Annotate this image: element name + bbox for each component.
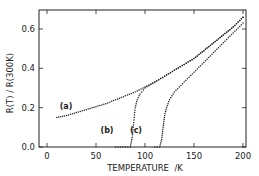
x-tick-label: 100 — [137, 151, 153, 161]
plot-frame — [39, 10, 246, 147]
curve-label: (a) — [60, 102, 73, 111]
data-series — [56, 16, 244, 147]
curve-label: (b) — [100, 126, 113, 135]
x-axis: 050100150200 — [44, 10, 251, 161]
y-tick-label: 0.4 — [21, 63, 35, 73]
y-tick-label: 0.0 — [21, 142, 35, 152]
x-tick-label: 150 — [186, 151, 202, 161]
x-tick-label: 200 — [235, 151, 251, 161]
series-c — [154, 22, 244, 147]
x-axis-label: TEMPERATURE /K — [106, 163, 183, 173]
x-tick-label: 50 — [91, 151, 102, 161]
series-a — [56, 16, 244, 118]
y-tick-label: 0.2 — [21, 103, 35, 113]
y-axis-label: R(T) / R(300K) — [5, 53, 15, 113]
curve-label: (c) — [130, 126, 142, 135]
resistance-temperature-chart: 050100150200 0.00.20.40.6 (a)(b)(c) TEMP… — [0, 0, 259, 176]
curve-labels: (a)(b)(c) — [60, 102, 142, 135]
x-tick-label: 0 — [44, 151, 49, 161]
y-tick-label: 0.6 — [21, 24, 35, 34]
